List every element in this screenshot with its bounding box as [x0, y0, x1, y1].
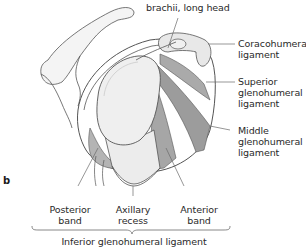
label-inferior-glenohumeral-ligament: Inferior glenohumeral ligament	[40, 236, 228, 247]
panel-label: b	[3, 175, 10, 186]
label-axillary-recess: Axillary recess	[108, 204, 158, 226]
label-middle-glenohumeral-ligament: Middle glenohumeral ligament	[238, 125, 303, 158]
label-biceps-long-head: brachii, long head	[146, 2, 230, 13]
label-superior-glenohumeral-ligament: Superior glenohumeral ligament	[238, 76, 303, 109]
label-posterior-band: Posterior band	[42, 204, 98, 226]
label-anterior-band: Anterior band	[172, 204, 226, 226]
inferior-brace	[32, 226, 230, 234]
glenohumeral-ligament-diagram: brachii, long head Coracohumeral ligamen…	[0, 0, 306, 249]
label-coracohumeral-ligament: Coracohumeral ligament	[238, 38, 306, 60]
